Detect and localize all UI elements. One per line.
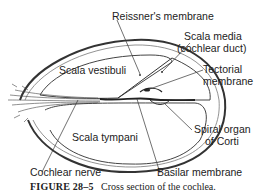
label-tectorial-membrane: membrane (203, 76, 253, 87)
label-spiral-organ: Spiral organ (194, 124, 251, 135)
label-tectorial: Tectorial (203, 64, 242, 75)
label-basilar-membrane: Basilar membrane (157, 167, 242, 178)
figure-number: FIGURE 28–5 (30, 181, 94, 192)
label-scala-media: Scala media (184, 31, 242, 42)
label-of-corti: of Corti (205, 136, 239, 147)
cochlea-diagram: Reissner's membrane Scala media (cochlea… (0, 0, 268, 196)
label-cochlear-duct: (cochlear duct) (177, 43, 246, 54)
label-reissners-membrane: Reissner's membrane (112, 11, 214, 22)
label-scala-vestibuli: Scala vestibuli (59, 65, 126, 76)
label-scala-tympani: Scala tympani (72, 132, 138, 143)
figure-caption: FIGURE 28–5 Cross section of the cochlea… (30, 181, 216, 192)
caption-text: Cross section of the cochlea. (101, 181, 216, 192)
label-cochlear-nerve: Cochlear nerve (30, 167, 101, 178)
